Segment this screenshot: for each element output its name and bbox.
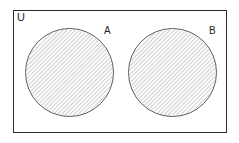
set-a-circle (25, 28, 114, 117)
set-b-circle (128, 28, 217, 117)
venn-diagram-figure: U A (0, 0, 239, 143)
universal-set-label: U (17, 12, 25, 23)
set-a-hatch-fill (26, 29, 113, 116)
set-b-hatch-fill (129, 29, 216, 116)
set-a-label: A (104, 26, 111, 36)
set-b-label: B (209, 26, 216, 36)
